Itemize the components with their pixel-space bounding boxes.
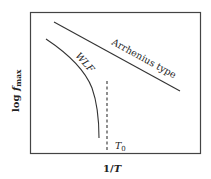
x-axis-label-main: 1/	[103, 163, 114, 174]
y-axis-label-sub: max	[14, 69, 23, 87]
x-axis-label: 1/T	[103, 163, 123, 174]
wlf-arrhenius-diagram: Arrhenius type WLF T0 log fmax 1/T	[0, 0, 211, 179]
y-axis-label-prefix: log	[10, 91, 21, 112]
t0-label-sub: 0	[121, 145, 125, 153]
t0-label: T0	[115, 140, 126, 153]
y-axis-label: log fmax	[10, 69, 23, 112]
x-axis-label-var: T	[114, 163, 123, 174]
wlf-curve	[46, 39, 99, 138]
wlf-label: WLF	[74, 50, 98, 75]
arrhenius-line	[54, 22, 180, 91]
plot-frame	[31, 13, 201, 154]
